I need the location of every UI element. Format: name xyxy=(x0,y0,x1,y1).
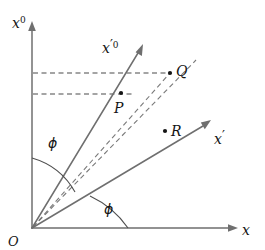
point-dot-q xyxy=(168,71,172,75)
angle-arcs-group xyxy=(32,158,128,228)
dashed-ray-origin-upper-right xyxy=(33,60,196,227)
axis-x-arrowhead xyxy=(228,224,238,232)
point-label-r: R xyxy=(170,123,182,139)
point-label-p: P xyxy=(113,100,124,116)
point-label-origin: O xyxy=(8,234,19,249)
axis-label-x-prime-mark: ′ xyxy=(222,128,225,143)
axis-label-x0-base: x xyxy=(12,15,20,31)
axis-label-x0-superscript: 0 xyxy=(20,15,26,25)
angle-label-phi-upper: ϕ xyxy=(48,135,57,151)
diagram-canvas: x0 x x′0 x′ P Q R O ϕ ϕ xyxy=(0,0,265,250)
point-labels-group: P Q R O xyxy=(8,63,188,249)
axis-label-x0-prime-superscript: 0 xyxy=(113,40,119,50)
axis-label-x0-prime: x′0 xyxy=(102,37,119,56)
axis-x0-arrowhead xyxy=(28,21,36,31)
dashed-lines-group xyxy=(33,60,196,227)
axis-label-x-prime-base: x xyxy=(214,131,222,147)
point-dot-r xyxy=(163,129,167,133)
axis-x-prime-line xyxy=(32,126,203,228)
axis-label-x: x xyxy=(242,222,250,238)
angle-label-phi-lower: ϕ xyxy=(104,201,113,217)
axis-label-x0: x0 xyxy=(12,15,26,31)
axis-label-x-base: x xyxy=(242,222,250,238)
axis-label-x-prime: x′ xyxy=(214,128,225,147)
coordinate-diagram: x0 x x′0 x′ P Q R O ϕ ϕ xyxy=(0,0,265,250)
point-dot-p xyxy=(119,91,123,95)
axis-x-prime-arrowhead xyxy=(201,120,211,129)
point-label-q: Q xyxy=(176,63,188,79)
axis-label-x0-prime-base: x xyxy=(102,40,110,56)
